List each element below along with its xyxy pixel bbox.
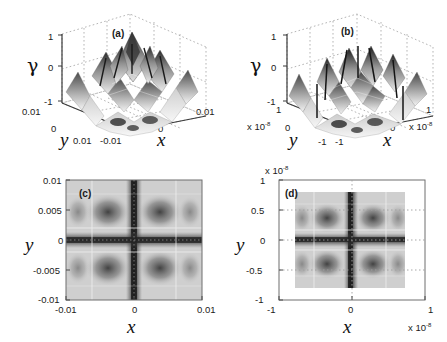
panel-a: γ 1 0 -1 0.01 0 0.01 y -0.01 0 0.01 x (a… <box>0 0 224 160</box>
panel-c: y 0.01 0.005 0 -0.005 -0.01 -0.01 0 0.01… <box>0 160 224 342</box>
panel-d-label: (d) <box>285 188 298 199</box>
panel-c-density-map <box>0 160 224 342</box>
panel-c-label: (c) <box>79 188 91 199</box>
panel-d-density-map <box>223 160 447 342</box>
panel-b: γ 1 0 -1 1 0 -1 y x 10-8 -1 0 1 x x 10-8… <box>223 0 447 160</box>
panel-b-axes-and-surface <box>223 0 447 160</box>
panel-a-axes-and-surface <box>0 0 224 160</box>
panel-d: y x 10-8 1 0.5 0 -0.5 -1 -1 0 1 x x 10-8… <box>223 160 447 342</box>
